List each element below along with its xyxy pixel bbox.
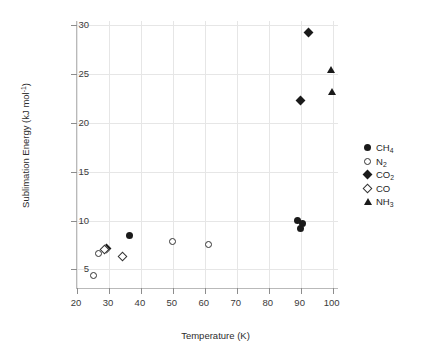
x-axis-tick xyxy=(301,288,302,294)
legend: CH4N2CO2CONH3 xyxy=(362,141,428,209)
x-axis-tick xyxy=(269,288,270,294)
gridline-horizontal xyxy=(77,25,338,26)
data-point-CH4 xyxy=(299,220,306,227)
legend-marker-CO-icon xyxy=(362,183,373,194)
data-point-CO xyxy=(117,252,127,262)
data-point-CO2 xyxy=(303,28,313,38)
x-axis-tick xyxy=(77,288,78,294)
gridline-horizontal xyxy=(77,269,338,270)
gridline-vertical xyxy=(173,21,174,288)
y-axis-tick-label: 20 xyxy=(49,117,89,128)
y-axis-tick-label: 5 xyxy=(49,263,89,274)
legend-label-CO: CO xyxy=(376,183,390,194)
x-axis-tick-label: 100 xyxy=(312,297,352,308)
gridline-vertical xyxy=(205,21,206,288)
data-point-CH4 xyxy=(126,232,133,239)
legend-label-N2: N2 xyxy=(376,156,387,167)
y-axis-tick-label: 10 xyxy=(49,215,89,226)
gridline-vertical xyxy=(237,21,238,288)
data-point-N2 xyxy=(169,238,176,245)
sublimation-energy-scatter-figure: Sublimation Energy (kJ mol-1) Temperatur… xyxy=(0,0,431,360)
legend-item-CH4: CH4 xyxy=(362,141,428,155)
legend-marker-N2-icon xyxy=(362,156,373,167)
data-point-N2 xyxy=(90,272,97,279)
legend-item-CO2: CO2 xyxy=(362,168,428,182)
gridline-horizontal xyxy=(77,74,338,75)
gridline-vertical xyxy=(301,21,302,288)
gridline-vertical xyxy=(141,21,142,288)
y-axis-label: Sublimation Energy (kJ mol-1) xyxy=(20,36,31,256)
data-point-NH3 xyxy=(327,66,335,73)
data-point-N2 xyxy=(205,241,212,248)
gridline-vertical xyxy=(269,21,270,288)
legend-item-NH3: NH3 xyxy=(362,195,428,209)
data-point-NH3 xyxy=(328,88,336,95)
x-axis-tick xyxy=(109,288,110,294)
data-point-CO2 xyxy=(295,95,305,105)
gridline-horizontal xyxy=(77,123,338,124)
gridline-horizontal xyxy=(77,172,338,173)
y-axis-tick-label: 15 xyxy=(49,166,89,177)
legend-marker-CH4-icon xyxy=(362,142,373,153)
legend-item-CO: CO xyxy=(362,182,428,196)
legend-item-N2: N2 xyxy=(362,155,428,169)
x-axis-label: Temperature (K) xyxy=(0,330,431,341)
x-axis-tick xyxy=(205,288,206,294)
legend-marker-NH3-icon xyxy=(362,196,373,207)
y-axis-tick-label: 25 xyxy=(49,68,89,79)
gridline-vertical xyxy=(333,21,334,288)
gridline-vertical xyxy=(77,21,78,288)
x-axis-tick xyxy=(237,288,238,294)
legend-label-CH4: CH4 xyxy=(376,142,394,153)
y-axis-tick-label: 30 xyxy=(49,19,89,30)
legend-marker-CO2-icon xyxy=(362,169,373,180)
plot-area xyxy=(76,21,338,289)
legend-label-NH3: NH3 xyxy=(376,196,394,207)
x-axis-tick xyxy=(333,288,334,294)
x-axis-tick xyxy=(141,288,142,294)
x-axis-tick xyxy=(173,288,174,294)
legend-label-CO2: CO2 xyxy=(376,169,394,180)
